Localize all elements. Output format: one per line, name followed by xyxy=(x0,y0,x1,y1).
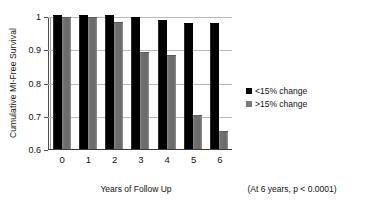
bar xyxy=(105,15,114,149)
bar xyxy=(210,23,219,149)
x-tick-label: 3 xyxy=(128,154,154,165)
legend-item-dark: <15% change xyxy=(246,84,307,97)
bar xyxy=(193,115,202,149)
gray-square-icon xyxy=(246,101,252,107)
bar-group xyxy=(127,17,153,149)
y-tick-mark xyxy=(44,150,48,151)
y-tick-label: 0.9 xyxy=(28,46,41,55)
bar-group xyxy=(75,17,101,149)
y-axis-title: Cumulative MI-Free Survival xyxy=(8,8,18,158)
bar xyxy=(53,15,62,149)
y-tick-mark xyxy=(44,117,48,118)
bar xyxy=(158,20,167,149)
x-axis-line xyxy=(48,149,232,150)
y-tick-label: 0.7 xyxy=(28,112,41,121)
x-tick-label: 5 xyxy=(180,154,206,165)
y-tick-label: 1 xyxy=(36,13,41,22)
bar xyxy=(219,131,228,149)
bar-group xyxy=(101,17,127,149)
y-tick-label: 0.6 xyxy=(28,146,41,155)
bar xyxy=(79,15,88,149)
bar-group xyxy=(154,17,180,149)
bar xyxy=(114,22,123,149)
bar xyxy=(131,17,140,149)
x-axis-ticks: 0123456 xyxy=(49,154,233,165)
x-tick-label: 0 xyxy=(49,154,75,165)
bar xyxy=(62,17,71,149)
legend-label-gray: >15% change xyxy=(255,99,307,109)
bar xyxy=(167,55,176,149)
significance-annotation: (At 6 years, p < 0.0001) xyxy=(222,184,362,194)
plot-area: 0.60.70.80.91 xyxy=(48,17,232,150)
x-tick-label: 1 xyxy=(75,154,101,165)
chart-legend: <15% change >15% change xyxy=(246,84,307,110)
legend-item-gray: >15% change xyxy=(246,97,307,110)
y-tick-mark xyxy=(44,84,48,85)
y-tick-mark xyxy=(44,17,48,18)
x-tick-label: 4 xyxy=(154,154,180,165)
chart-figure: Cumulative MI-Free Survival 0.60.70.80.9… xyxy=(0,0,365,210)
x-tick-label: 2 xyxy=(102,154,128,165)
y-tick-mark xyxy=(44,50,48,51)
y-tick-label: 0.8 xyxy=(28,79,41,88)
bar xyxy=(184,23,193,149)
bar-group xyxy=(49,17,75,149)
bar-group xyxy=(180,17,206,149)
bar xyxy=(88,17,97,149)
dark-square-icon xyxy=(246,88,252,94)
bar-groups xyxy=(49,17,232,149)
x-tick-label: 6 xyxy=(207,154,233,165)
legend-label-dark: <15% change xyxy=(255,86,307,96)
bar-group xyxy=(206,17,232,149)
x-axis-title: Years of Follow Up xyxy=(56,184,216,194)
bar xyxy=(140,52,149,149)
